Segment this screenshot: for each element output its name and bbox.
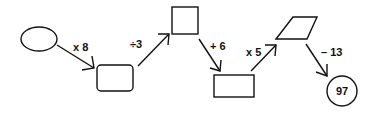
op-label-1: x 8: [73, 41, 88, 53]
box2-square: [172, 7, 198, 34]
box4-parallelogram: [276, 17, 317, 39]
op-label-3: + 6: [210, 40, 226, 52]
op-label-5: – 13: [321, 46, 342, 58]
op-label-4: x 5: [246, 46, 261, 58]
box1-rounded-rect: [97, 65, 133, 91]
start-ellipse: [21, 27, 57, 51]
op-label-2: ÷3: [130, 38, 142, 50]
box3-rectangle: [214, 75, 254, 97]
function-machine-diagram: x 8 ÷3 + 6 x 5 – 13 97: [0, 0, 375, 115]
end-value: 97: [336, 85, 348, 97]
arrow-divide-3: [138, 34, 169, 66]
